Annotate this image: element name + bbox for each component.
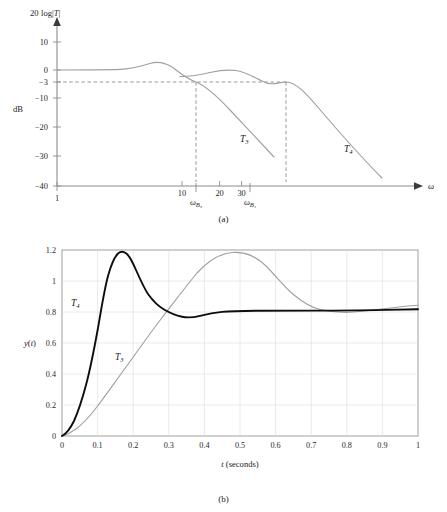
panel-a-xtick-1: 1 xyxy=(55,194,59,203)
panel-a-ylabel-side: dB xyxy=(13,104,23,114)
panel-b-xtick-0: 0 xyxy=(60,441,64,450)
panel-b-ylabel: y(t) xyxy=(23,338,36,348)
panel-b-xtick-0p6: 0.6 xyxy=(270,441,280,450)
panel-a-reference-lines xyxy=(57,82,286,182)
panel-b-xtick-0p7: 0.7 xyxy=(306,441,316,450)
panel-b-y-ticks: 1.2 1 0.8 0.6 0.4 0.2 0 xyxy=(46,246,56,441)
panel-a-caption: (a) xyxy=(0,214,447,224)
panel-a-ytick-minus40: −40 xyxy=(35,182,48,191)
panel-b-xtick-0p2: 0.2 xyxy=(128,441,138,450)
panel-a-bode-plot: 20log|T| dB ω 10 0 −3 −10 −20 xyxy=(0,0,447,212)
panel-b-ytick-0p2: 0.2 xyxy=(46,401,56,410)
panel-a-ytick-minus30: −30 xyxy=(35,152,48,161)
panel-b-xtick-0p5: 0.5 xyxy=(235,441,245,450)
panel-a-ylabel-top: 20log|T| xyxy=(30,8,61,18)
panel-b-ytick-0: 0 xyxy=(52,432,56,441)
panel-b-step-response-plot: 1.2 1 0.8 0.6 0.4 0.2 0 y(t) 0 0.1 0.2 0… xyxy=(0,228,447,508)
panel-a-curve-t4 xyxy=(180,70,382,178)
panel-b-x-ticks: 0 0.1 0.2 0.3 0.4 0.5 0.6 0.7 0.8 0.9 1 xyxy=(60,441,420,450)
panel-b-xtick-0p3: 0.3 xyxy=(164,441,174,450)
panel-b-xtick-1: 1 xyxy=(416,441,420,450)
panel-a-curve-label-t3: T3 xyxy=(240,134,249,145)
panel-a-omega-b4-annotation: ωB₄ xyxy=(244,183,257,208)
panel-b-ytick-0p8: 0.8 xyxy=(46,308,56,317)
panel-b-ytick-1: 1 xyxy=(52,277,56,286)
panel-b-xtick-0p4: 0.4 xyxy=(199,441,209,450)
panel-a-ytick-minus3: −3 xyxy=(39,78,48,87)
panel-a-ytick-minus20: −20 xyxy=(35,123,48,132)
panel-b-caption: (b) xyxy=(0,494,447,504)
panel-b-xtick-0p9: 0.9 xyxy=(377,441,387,450)
panel-a-x-ticks: 1 10 20 30 xyxy=(55,181,246,203)
panel-a-xtick-10: 10 xyxy=(178,189,186,198)
panel-b-xtick-0p1: 0.1 xyxy=(92,441,102,450)
panel-a-omega-b3-annotation: ωB₃ xyxy=(190,183,203,208)
panel-a-ytick-minus10: −10 xyxy=(35,94,48,103)
panel-b-xtick-0p8: 0.8 xyxy=(342,441,352,450)
panel-a-xtick-20: 20 xyxy=(215,189,223,198)
panel-b-ytick-0p6: 0.6 xyxy=(46,339,56,348)
panel-a-xlabel: ω xyxy=(428,181,434,191)
panel-a-ytick-10: 10 xyxy=(40,38,48,47)
panel-b-xlabel: t (seconds) xyxy=(221,459,259,469)
panel-a-ytick-0: 0 xyxy=(44,66,48,75)
panel-a-xtick-30: 30 xyxy=(237,189,245,198)
figure-container: 20log|T| dB ω 10 0 −3 −10 −20 xyxy=(0,0,447,512)
panel-a-omega-b4-label: ωB₄ xyxy=(244,198,257,208)
panel-a-omega-b3-label: ωB₃ xyxy=(190,198,203,208)
panel-b-ytick-1p2: 1.2 xyxy=(46,246,56,255)
panel-b-ytick-0p4: 0.4 xyxy=(46,370,56,379)
